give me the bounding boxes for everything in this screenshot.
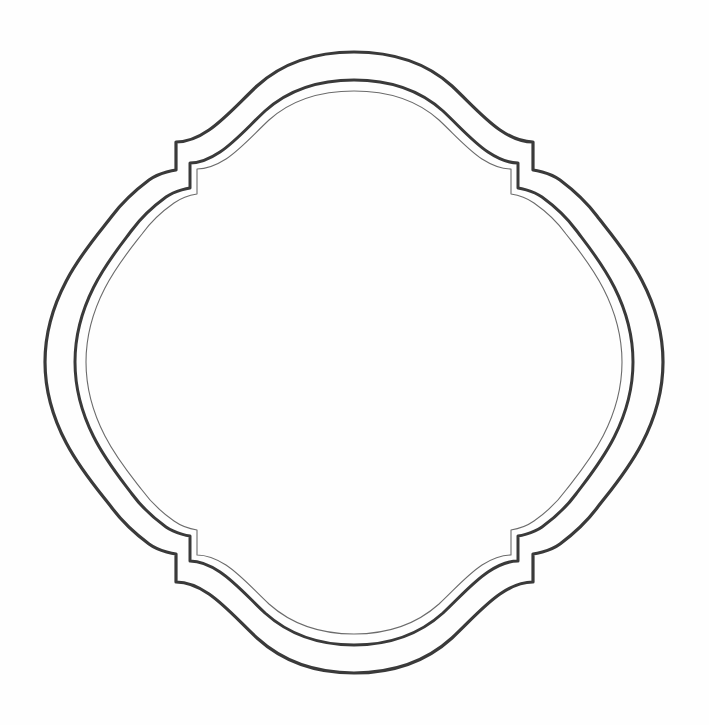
canvas-background xyxy=(0,0,709,725)
ornamental-frame-illustration xyxy=(0,0,709,725)
artboard xyxy=(0,0,709,725)
